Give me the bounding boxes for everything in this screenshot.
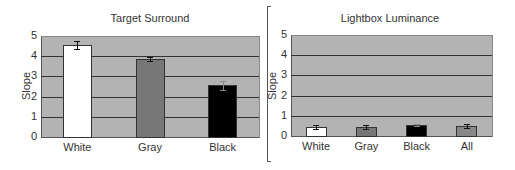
plot-area <box>291 35 493 137</box>
chart-title: Lightbox Luminance <box>290 12 490 24</box>
error-cap <box>313 125 319 126</box>
gridline <box>291 116 492 117</box>
gridline <box>291 96 492 97</box>
y-tick-label: 3 <box>275 68 287 80</box>
error-cap <box>414 126 420 127</box>
y-tick-label: 1 <box>275 109 287 121</box>
error-cap <box>363 125 369 126</box>
y-tick-label: 4 <box>275 48 287 60</box>
gridline <box>291 55 492 56</box>
error-cap <box>464 124 470 125</box>
y-tick-label: 2 <box>275 89 287 101</box>
error-cap <box>313 129 319 130</box>
error-cap <box>414 124 420 125</box>
x-tick-label: All <box>437 140 497 152</box>
gridline <box>291 75 492 76</box>
error-cap <box>464 128 470 129</box>
y-tick-label: 5 <box>275 28 287 40</box>
error-cap <box>363 129 369 130</box>
y-axis <box>291 36 292 137</box>
chart-lightbox-luminance: Lightbox Luminance Slope 012345 WhiteGra… <box>0 0 515 170</box>
